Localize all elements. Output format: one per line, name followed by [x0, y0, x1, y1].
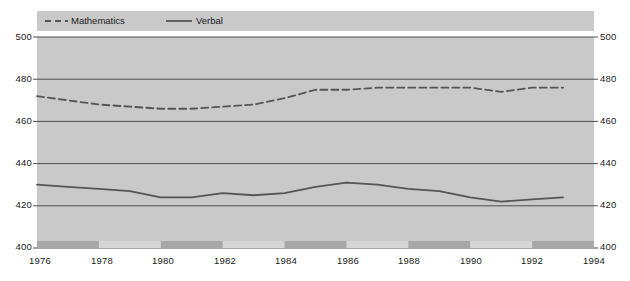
legend-item-mathematics-label: Mathematics — [71, 15, 125, 26]
year-band-1976-1978 — [37, 241, 99, 248]
chart-plot-area — [0, 0, 630, 281]
y-axis-left-tick-480: 480 — [2, 73, 32, 84]
x-axis-tick-1978: 1978 — [82, 255, 122, 266]
x-axis-tick-1986: 1986 — [328, 255, 368, 266]
legend-item-verbal-label: Verbal — [196, 15, 223, 26]
x-axis-tick-1994: 1994 — [574, 255, 614, 266]
year-band-1992-1994 — [532, 241, 594, 248]
x-axis-tick-1992: 1992 — [512, 255, 552, 266]
y-axis-left-tick-460: 460 — [2, 115, 32, 126]
y-axis-left-tick-440: 440 — [2, 157, 32, 168]
x-axis-tick-1982: 1982 — [205, 255, 245, 266]
x-axis-tick-1990: 1990 — [451, 255, 491, 266]
y-axis-left-tick-500: 500 — [2, 31, 32, 42]
y-axis-left-tick-420: 420 — [2, 199, 32, 210]
y-axis-right-tick-500: 500 — [600, 31, 630, 42]
year-band-1988-1990 — [408, 241, 470, 248]
plot-background — [37, 37, 594, 248]
x-axis-tick-1988: 1988 — [389, 255, 429, 266]
y-axis-right-tick-480: 480 — [600, 73, 630, 84]
sat-scores-line-chart: Mathematics Verbal 500 480 460 440 420 4… — [0, 0, 630, 281]
x-axis-tick-1980: 1980 — [143, 255, 183, 266]
year-shaded-bands — [37, 241, 594, 248]
y-axis-left-tick-400: 400 — [2, 241, 32, 252]
year-band-1984-1986 — [285, 241, 347, 248]
y-axis-right-tick-400: 400 — [600, 241, 630, 252]
year-band-1980-1982 — [161, 241, 223, 248]
y-axis-right-tick-460: 460 — [600, 115, 630, 126]
y-axis-right-tick-440: 440 — [600, 157, 630, 168]
x-axis-tick-1984: 1984 — [266, 255, 306, 266]
x-axis-tick-1976: 1976 — [20, 255, 60, 266]
y-axis-right-tick-420: 420 — [600, 199, 630, 210]
